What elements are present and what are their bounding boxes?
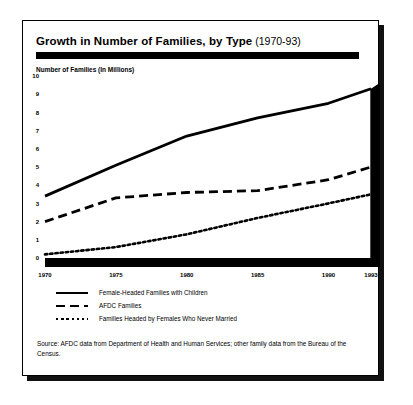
x-axis-tick: 1975 — [109, 272, 123, 278]
y-axis-tick-labels: 012345678910 — [32, 73, 39, 261]
legend-item: AFDC Families — [56, 299, 356, 312]
legend-item: Families Headed by Females Who Never Mar… — [56, 312, 356, 325]
right-wall — [371, 83, 380, 267]
legend-swatch-dotted — [56, 314, 88, 324]
data-series-layer — [45, 89, 371, 255]
data-series-line-2 — [45, 194, 371, 254]
legend-swatch-solid — [56, 288, 88, 298]
chart-plot-area: 012345678910 197019751980198519901993 — [23, 21, 380, 281]
x-axis-tick: 1993 — [364, 272, 378, 278]
legend-item: Female-Headed Families with Children — [56, 286, 356, 299]
legend-swatch-dashed — [56, 301, 88, 311]
x-axis-tick: 1970 — [38, 272, 52, 278]
legend-label: Families Headed by Females Who Never Mar… — [99, 315, 237, 322]
x-axis-tick: 1985 — [251, 272, 265, 278]
y-axis-tick: 6 — [36, 146, 40, 152]
chart-card: Growth in Number of Families, by Type(19… — [22, 20, 379, 376]
y-axis-tick: 5 — [36, 164, 40, 170]
x-axis-tick: 1990 — [322, 272, 336, 278]
y-axis-tick: 7 — [36, 128, 40, 134]
y-axis-tick: 2 — [36, 219, 40, 225]
legend-label: AFDC Families — [99, 302, 141, 309]
y-axis-tick: 1 — [36, 237, 40, 243]
x-axis-tick-labels: 197019751980198519901993 — [38, 272, 378, 278]
legend-label: Female-Headed Families with Children — [99, 289, 208, 296]
chart-legend: Female-Headed Families with ChildrenAFDC… — [56, 286, 356, 325]
y-axis-tick: 4 — [36, 182, 40, 188]
y-axis-tick: 8 — [36, 110, 40, 116]
y-axis-tick: 0 — [36, 255, 40, 261]
y-axis-tick: 3 — [36, 201, 40, 207]
x-axis-floor-front — [45, 258, 380, 267]
y-axis-tick: 10 — [32, 73, 39, 79]
x-axis-tick: 1980 — [180, 272, 194, 278]
source-note: Source: AFDC data from Department of Hea… — [37, 339, 359, 358]
y-axis-tick: 9 — [36, 91, 40, 97]
